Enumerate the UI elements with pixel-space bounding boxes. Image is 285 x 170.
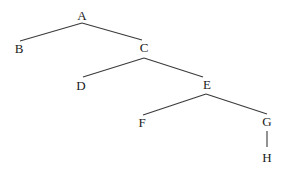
tree-diagram: ABCDEFGH [0, 0, 285, 170]
edge-e-g [206, 94, 267, 114]
node-a: A [77, 8, 87, 23]
edge-c-e [144, 58, 203, 77]
edge-a-c [82, 23, 142, 40]
edge-e-f [143, 94, 206, 115]
edge-a-b [20, 23, 82, 41]
node-h: H [262, 150, 271, 165]
node-f: F [138, 115, 145, 130]
node-g: G [262, 114, 271, 129]
edge-c-d [83, 58, 144, 77]
node-d: D [76, 78, 85, 93]
node-b: B [15, 41, 24, 56]
node-c: C [140, 40, 149, 55]
node-e: E [203, 77, 211, 92]
